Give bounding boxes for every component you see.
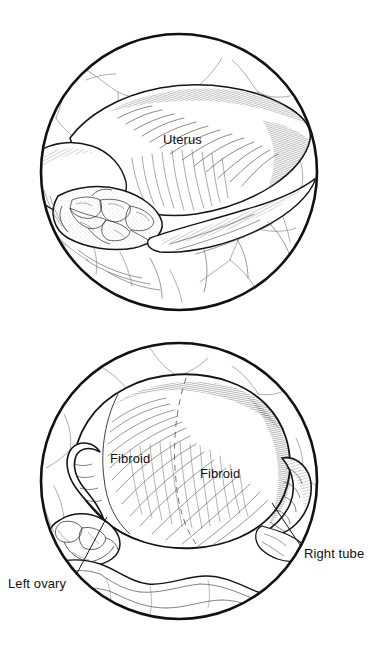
label-fibroid-left: Fibroid [110,452,150,465]
figure-fibroid-uterus-laparoscopic-view [0,330,382,658]
figure-uterus-laparoscopic-view [0,0,382,330]
fibroid-panel-contents [0,330,382,658]
uterus-panel-contents [0,0,382,330]
label-uterus: Uterus [163,133,202,146]
label-right-tube: Right tube [304,547,364,560]
label-left-ovary: Left ovary [8,577,66,590]
illustration-stack: Uterus Fibroid Fibroid Left ovary Right … [0,0,382,658]
label-fibroid-right: Fibroid [200,467,240,480]
